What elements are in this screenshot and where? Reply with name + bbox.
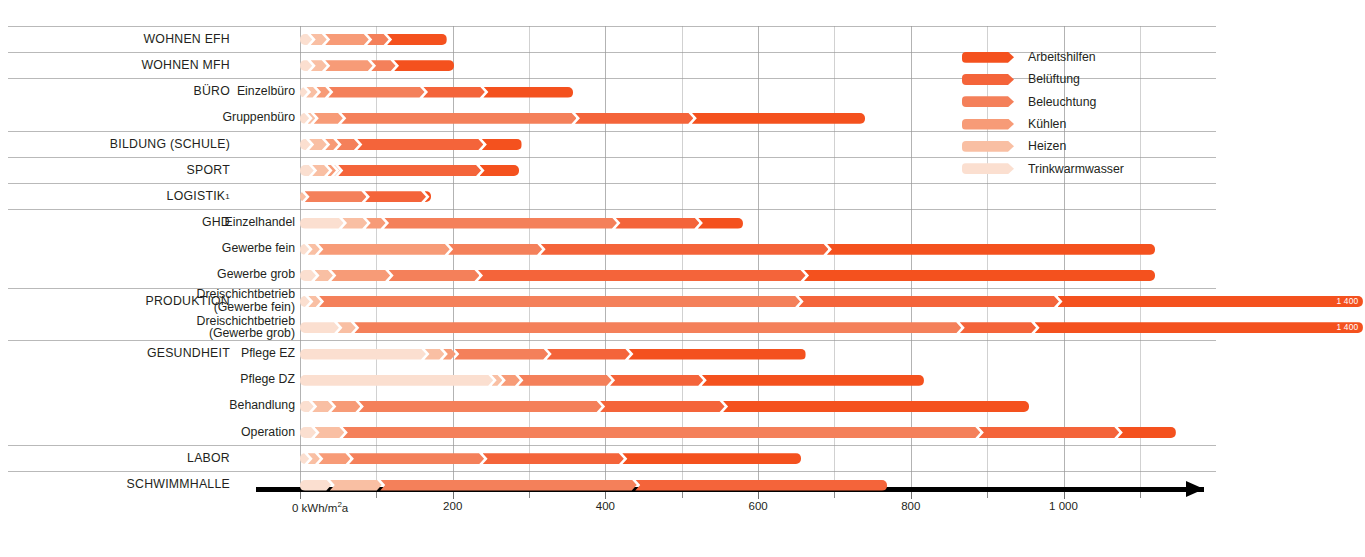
legend-label: Trinkwarmwasser (1028, 162, 1124, 176)
sub-label: Gruppenbüro (150, 105, 295, 131)
group-label: WOHNEN MFH (8, 52, 230, 78)
legend-swatch-icon (962, 163, 1014, 174)
bar-segment (342, 218, 367, 229)
bar-segment (492, 375, 503, 386)
bar-segment (979, 427, 1119, 438)
legend-item[interactable]: Heizen (962, 135, 1124, 157)
bar-segment (300, 270, 316, 281)
axis-tick (758, 492, 759, 499)
bar-segment (635, 480, 887, 491)
stacked-bar: 1 400 (300, 322, 1365, 333)
sub-label: Dreischichtbetrieb(Gewerbe fein) (150, 288, 295, 314)
bar-segment (341, 113, 576, 124)
bar-segment (325, 34, 369, 45)
bar-segment (300, 139, 311, 150)
axis-tick (605, 492, 606, 499)
stacked-bar (300, 113, 868, 124)
bar-segment (318, 244, 449, 255)
bar-segment (300, 480, 331, 491)
sub-label: Gewerbe fein (150, 236, 295, 262)
bar-segment (1118, 427, 1176, 438)
bar-segment (325, 139, 338, 150)
bar-segment (308, 453, 320, 464)
bar-segment (306, 87, 317, 98)
bar-segment (300, 244, 309, 255)
legend-label: Belüftung (1028, 72, 1080, 86)
bar-segment (424, 349, 444, 360)
bar-segment (482, 139, 522, 150)
bar-segment (300, 87, 308, 98)
axis-tick-label: 400 (596, 500, 615, 512)
bar-segment (300, 427, 316, 438)
stacked-bar (300, 191, 434, 202)
axis-tick-label: 600 (749, 500, 768, 512)
axis-tick-label: 1 000 (1049, 500, 1078, 512)
axis-minor-tick (376, 492, 377, 498)
sub-label: Behandlung (150, 393, 295, 419)
group-label: WOHNEN EFH (8, 26, 230, 52)
bar-value-label: 1 400 (1336, 322, 1358, 333)
bar-segment (443, 349, 456, 360)
axis-tick (453, 492, 454, 499)
stacked-bar (300, 453, 803, 464)
bar-segment (331, 270, 390, 281)
stacked-bar (300, 427, 1178, 438)
bar-segment (312, 165, 329, 176)
sub-label: Dreischichtbetrieb(Gewerbe grob) (150, 314, 295, 340)
bar-segment (316, 87, 330, 98)
bar-segment (547, 349, 630, 360)
group-label: BILDUNG (SCHULE) (8, 131, 230, 157)
legend-label: Arbeitshilfen (1028, 50, 1096, 64)
legend: ArbeitshilfenBelüftungBeleuchtungKühlenH… (962, 46, 1124, 180)
axis-tick (300, 492, 301, 499)
bar-segment (1058, 296, 1363, 307)
bar-segment (308, 296, 320, 307)
bar-segment (610, 375, 703, 386)
axis-tick-label: 200 (443, 500, 462, 512)
bar-segment (330, 480, 382, 491)
legend-item[interactable]: Kühlen (962, 113, 1124, 135)
bar-segment (483, 453, 624, 464)
bar-segment (702, 375, 924, 386)
legend-item[interactable]: Arbeitshilfen (962, 46, 1124, 68)
bar-segment (349, 453, 484, 464)
bar-segment (300, 34, 312, 45)
bar-segment (300, 401, 314, 412)
bar-segment (501, 375, 520, 386)
legend-item[interactable]: Belüftung (962, 68, 1124, 90)
bar-segment (394, 60, 454, 71)
axis-minor-tick (987, 492, 988, 498)
bar-segment (960, 322, 1036, 333)
legend-item[interactable]: Trinkwarmwasser (962, 157, 1124, 179)
bar-segment (387, 34, 447, 45)
legend-item[interactable]: Beleuchtung (962, 91, 1124, 113)
bar-segment (311, 60, 327, 71)
legend-swatch-icon (962, 141, 1014, 152)
sub-label: Pflege EZ (150, 340, 295, 366)
bar-segment (337, 322, 355, 333)
bar-segment (312, 401, 333, 412)
bar-segment (300, 296, 310, 307)
axis-minor-tick (682, 492, 683, 498)
group-label: LOGISTIK1 (8, 183, 230, 209)
legend-swatch-icon (962, 119, 1014, 130)
bar-segment (325, 60, 372, 71)
bar-segment (314, 113, 343, 124)
legend-swatch-icon (962, 52, 1014, 63)
axis-minor-tick (1140, 492, 1141, 498)
sub-label: Operation (150, 419, 295, 445)
bar-segment (1035, 322, 1363, 333)
sub-label: Gewerbe grob (150, 262, 295, 288)
bar-segment (300, 322, 339, 333)
bar-segment (319, 296, 800, 307)
bar-segment (389, 270, 480, 281)
bar-segment (328, 87, 424, 98)
bar-segment (698, 218, 743, 229)
sub-label: Pflege DZ (150, 366, 295, 392)
bar-segment (448, 244, 542, 255)
bar-segment (380, 480, 637, 491)
sub-label-line: (Gewerbe grob) (197, 327, 295, 340)
bar-segment (309, 139, 327, 150)
bar-segment (692, 113, 865, 124)
